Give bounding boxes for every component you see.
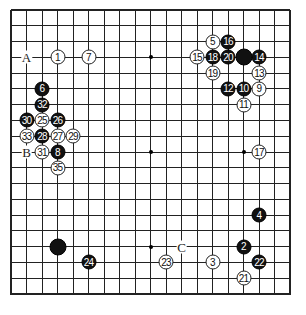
grid-line-vertical: [119, 10, 120, 295]
white-stone: 31: [35, 145, 50, 160]
grid-line-horizontal: [11, 262, 290, 263]
white-stone: 23: [159, 255, 174, 270]
white-stone: 13: [252, 66, 267, 81]
black-stone: 6: [35, 81, 50, 96]
black-stone: 4: [252, 208, 267, 223]
grid-line-vertical: [73, 10, 74, 295]
white-stone: 5: [205, 34, 220, 49]
black-stone: 30: [19, 113, 34, 128]
grid-line-vertical: [166, 10, 167, 295]
white-stone: 3: [205, 255, 220, 270]
star-point: [149, 55, 153, 59]
white-stone: 9: [252, 81, 267, 96]
white-stone: 19: [205, 66, 220, 81]
grid-line-horizontal: [11, 215, 290, 216]
white-stone: 25: [35, 113, 50, 128]
black-stone: 28: [35, 129, 50, 144]
black-stone: 22: [252, 255, 267, 270]
white-stone: 15: [190, 50, 205, 65]
grid-line-vertical: [274, 10, 275, 295]
white-stone: 1: [50, 50, 65, 65]
black-stone: 26: [50, 113, 65, 128]
grid-line-vertical: [104, 10, 105, 295]
white-stone: 33: [19, 129, 34, 144]
black-stone: 14: [252, 50, 267, 65]
star-point: [149, 150, 153, 154]
black-stone: 10: [236, 81, 251, 96]
star-point: [149, 245, 153, 249]
black-stone: 24: [81, 255, 96, 270]
white-stone: 7: [81, 50, 96, 65]
grid-line-horizontal: [11, 293, 290, 295]
black-stone: 8: [50, 145, 65, 160]
black-stone: 32: [35, 97, 50, 112]
marker-a: A: [21, 51, 32, 64]
white-stone: 29: [66, 129, 81, 144]
grid-line-horizontal: [11, 183, 290, 184]
black-stone: 12: [221, 81, 236, 96]
black-stone: [235, 49, 252, 66]
grid-line-vertical: [289, 10, 291, 295]
white-stone: 27: [50, 129, 65, 144]
grid-line-horizontal: [11, 230, 290, 231]
white-stone: 11: [236, 97, 251, 112]
marker-b: B: [21, 146, 32, 159]
go-board: A B C 1234567891011121314151617181920212…: [0, 0, 306, 315]
black-stone: [49, 238, 66, 255]
black-stone: 16: [221, 34, 236, 49]
black-stone: 18: [205, 50, 220, 65]
marker-c: C: [176, 240, 187, 253]
grid-line-vertical: [135, 10, 136, 295]
white-stone: 21: [236, 271, 251, 286]
star-point: [242, 150, 246, 154]
white-stone: 35: [50, 160, 65, 175]
grid-line-vertical: [10, 10, 12, 295]
grid-line-horizontal: [11, 199, 290, 200]
black-stone: 20: [221, 50, 236, 65]
black-stone: 2: [236, 239, 251, 254]
white-stone: 17: [252, 145, 267, 160]
